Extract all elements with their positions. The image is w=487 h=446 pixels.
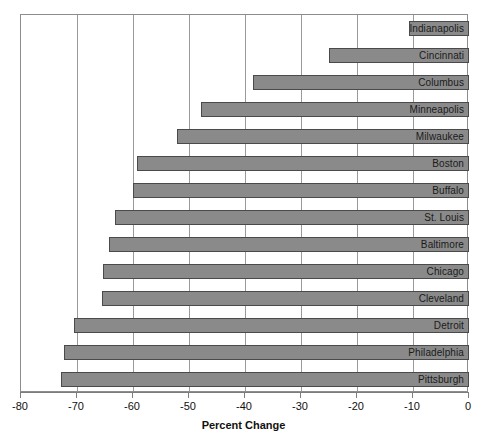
bar-category-label: Pittsburgh <box>418 375 464 385</box>
bar-category-label: Cleveland <box>419 294 464 304</box>
x-tick <box>412 392 413 398</box>
bar-row: Columbus <box>21 75 467 90</box>
x-tick <box>20 392 21 398</box>
bar-category-label: Cincinnati <box>419 51 464 61</box>
bar-category-label: Detroit <box>434 321 464 331</box>
x-tick-label: -40 <box>236 400 252 412</box>
x-tick-label: -20 <box>348 400 364 412</box>
bar-row: Philadelphia <box>21 345 467 360</box>
bar[interactable] <box>102 291 469 306</box>
bar-row: Chicago <box>21 264 467 279</box>
bar-row: Cincinnati <box>21 48 467 63</box>
bar-chart: IndianapolisCincinnatiColumbusMinneapoli… <box>0 0 487 446</box>
x-tick-label: -10 <box>404 400 420 412</box>
bar-category-label: Chicago <box>427 267 464 277</box>
x-tick-label: -70 <box>68 400 84 412</box>
bar-row: Indianapolis <box>21 21 467 36</box>
x-tick <box>188 392 189 398</box>
bar-row: Cleveland <box>21 291 467 306</box>
bar[interactable] <box>133 183 469 198</box>
bar-category-label: Columbus <box>418 78 464 88</box>
x-tick-label: -80 <box>12 400 28 412</box>
bars-layer: IndianapolisCincinnatiColumbusMinneapoli… <box>21 15 467 391</box>
bar-row: Pittsburgh <box>21 372 467 387</box>
bar[interactable] <box>74 318 469 333</box>
bar-row: Milwaukee <box>21 129 467 144</box>
bar-row: Minneapolis <box>21 102 467 117</box>
x-axis-title: Percent Change <box>0 419 487 431</box>
bar[interactable] <box>115 210 469 225</box>
bar-category-label: Milwaukee <box>416 132 464 142</box>
x-tick <box>76 392 77 398</box>
bar-row: Detroit <box>21 318 467 333</box>
bar-category-label: Boston <box>432 159 464 169</box>
bar-category-label: Philadelphia <box>408 348 464 358</box>
bar[interactable] <box>61 372 469 387</box>
bar-category-label: Indianapolis <box>409 24 464 34</box>
x-tick <box>468 392 469 398</box>
x-tick-label: -50 <box>180 400 196 412</box>
x-tick <box>132 392 133 398</box>
bar-category-label: St. Louis <box>424 213 464 223</box>
x-tick-label: -60 <box>124 400 140 412</box>
bar-row: Baltimore <box>21 237 467 252</box>
bar-category-label: Baltimore <box>421 240 464 250</box>
x-tick-label: -30 <box>292 400 308 412</box>
x-tick <box>356 392 357 398</box>
bar-category-label: Buffalo <box>432 186 464 196</box>
bar[interactable] <box>137 156 469 171</box>
bar-row: Buffalo <box>21 183 467 198</box>
bar[interactable] <box>103 264 469 279</box>
bar-row: St. Louis <box>21 210 467 225</box>
x-tick-label: 0 <box>465 400 471 412</box>
bar-row: Boston <box>21 156 467 171</box>
bar-category-label: Minneapolis <box>410 105 464 115</box>
plot-area: IndianapolisCincinnatiColumbusMinneapoli… <box>20 14 468 392</box>
x-tick <box>300 392 301 398</box>
x-tick <box>244 392 245 398</box>
bar[interactable] <box>109 237 469 252</box>
